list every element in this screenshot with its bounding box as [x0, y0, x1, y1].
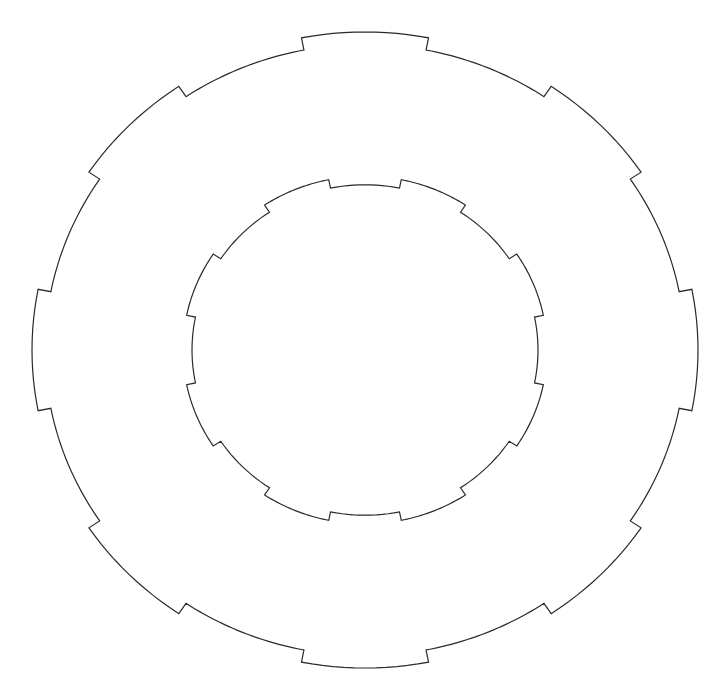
inner-notched-edge: [187, 180, 544, 521]
gasket-drawing: [0, 0, 725, 694]
gasket-shape: [32, 32, 698, 668]
outer-tabbed-edge: [32, 32, 698, 668]
